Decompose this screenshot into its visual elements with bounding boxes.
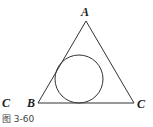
figure-caption: 图 3-60 [2, 114, 35, 124]
label-c-stray: C [2, 96, 11, 110]
label-a: A [80, 5, 89, 19]
label-c: C [137, 97, 146, 111]
triangle-abc [38, 21, 134, 103]
inscribed-circle [55, 55, 103, 103]
triangle-diagram: A B C C 图 3-60 [0, 0, 153, 127]
label-b: B [26, 96, 35, 110]
